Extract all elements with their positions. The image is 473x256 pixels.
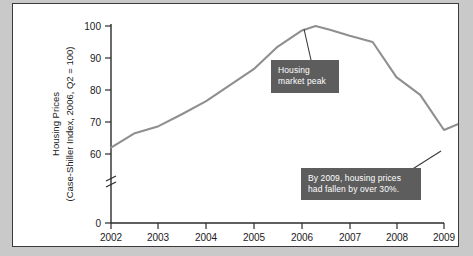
x-tick-label-2006: 2006: [291, 232, 314, 243]
y-tick-label-80: 80: [90, 85, 102, 96]
y-axis-title-line2: (Case-Shiller Index, 2006, Q2 = 100): [64, 47, 75, 202]
x-tick-label-2004: 2004: [195, 232, 218, 243]
y-axis-ticks: [105, 26, 111, 223]
figure-frame: 100 90 80 70 60 0 2002 2003 2004 2005: [12, 3, 459, 247]
y-tick-label-0: 0: [95, 218, 101, 229]
y-tick-label-70: 70: [90, 117, 102, 128]
y-tick-label-90: 90: [90, 53, 102, 64]
annotation-fall-line2: had fallen by over 30%.: [308, 184, 414, 195]
annotation-housing-market-peak[interactable]: Housing market peak: [271, 60, 339, 93]
x-tick-label-2008: 2008: [386, 232, 409, 243]
annotation-peak-line1: Housing: [278, 65, 332, 76]
x-tick-label-2003: 2003: [147, 232, 170, 243]
annotation-peak-line2: market peak: [278, 76, 332, 87]
peak-annotation-leader-line: [304, 29, 311, 60]
x-tick-label-2009: 2009: [433, 232, 456, 243]
x-tick-label-2002: 2002: [100, 232, 123, 243]
y-axis-title-line1: Housing Prices: [50, 92, 61, 156]
housing-prices-line-chart: 100 90 80 70 60 0 2002 2003 2004 2005: [13, 4, 458, 246]
x-axis-ticks: [111, 223, 444, 229]
x-tick-label-2005: 2005: [243, 232, 266, 243]
screenshot-root: 100 90 80 70 60 0 2002 2003 2004 2005: [0, 0, 473, 256]
annotation-price-fall-2009[interactable]: By 2009, housing prices had fallen by ov…: [301, 168, 421, 200]
annotation-fall-line1: By 2009, housing prices: [308, 173, 414, 184]
y-tick-label-60: 60: [90, 149, 102, 160]
x-tick-label-2007: 2007: [339, 232, 362, 243]
y-tick-label-100: 100: [84, 21, 101, 32]
